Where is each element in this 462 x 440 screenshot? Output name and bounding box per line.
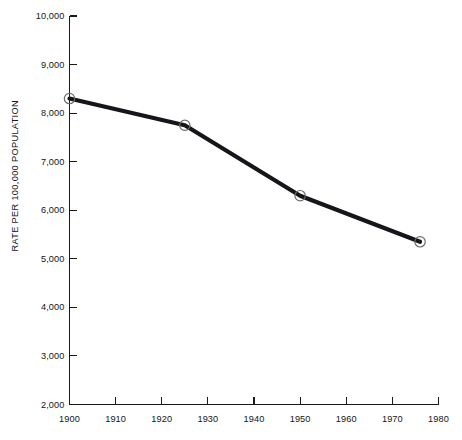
data-point-marker [295,190,305,200]
x-tick-label: 1900 [59,414,80,424]
y-tick-label: 4,000 [41,302,65,312]
data-series-group [64,93,425,247]
x-tick-label: 1950 [290,414,311,424]
y-tick-label: 6,000 [41,205,65,215]
data-point-marker [64,93,74,103]
x-tick-label: 1970 [382,414,403,424]
x-tick-label: 1930 [197,414,218,424]
y-tick-label: 5,000 [41,254,65,264]
x-tick-label: 1960 [336,414,357,424]
line-chart: 2,0003,0004,0005,0006,0007,0008,0009,000… [0,0,462,440]
x-tick-label: 1910 [105,414,126,424]
chart-plot-area [0,0,462,440]
y-tick-label: 8,000 [41,108,65,118]
x-tick-label: 1920 [151,414,172,424]
y-tick-label: 2,000 [41,400,65,410]
x-tick-marks [70,397,439,405]
x-tick-label: 1980 [428,414,449,424]
y-tick-marks [70,16,77,405]
data-line [70,99,421,242]
y-tick-label: 7,000 [41,157,65,167]
y-tick-label: 9,000 [41,60,65,70]
y-tick-label: 3,000 [41,351,65,361]
x-tick-label: 1940 [244,414,265,424]
y-tick-label: 10,000 [36,11,65,21]
axes-group [70,16,439,405]
y-axis-title: RATE PER 100,000 POPULATION [10,100,20,252]
data-point-marker [415,237,425,247]
data-point-marker [180,120,190,130]
